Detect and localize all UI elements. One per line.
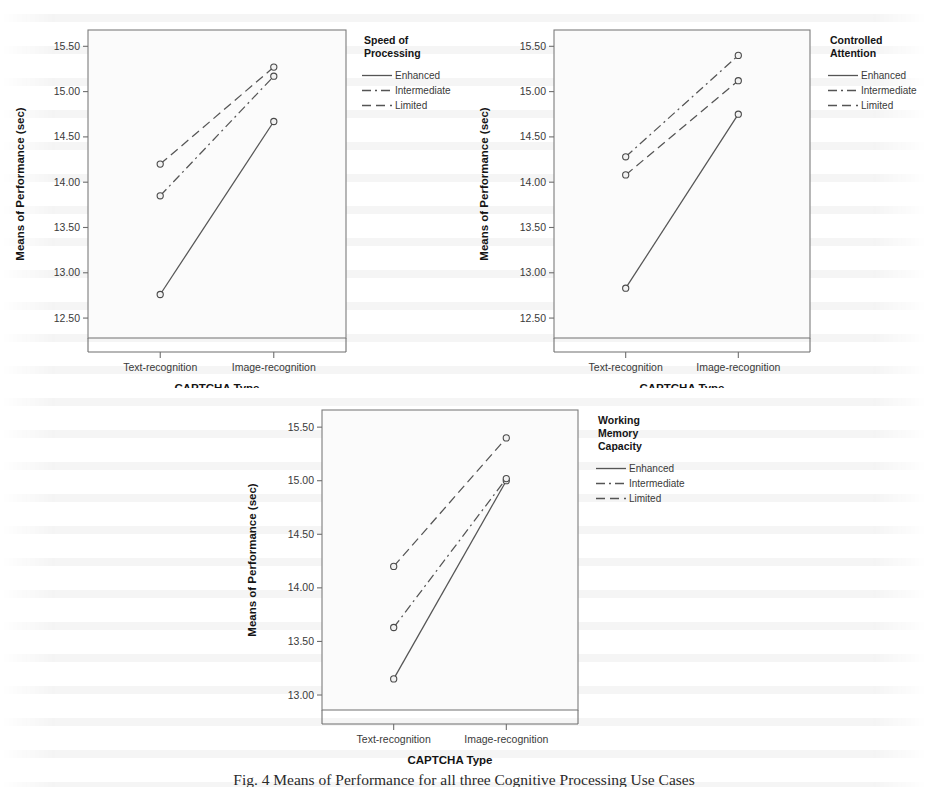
- y-tick-label: 14.00: [520, 176, 546, 188]
- chart-panel-controlled-attention: 12.5013.0013.5014.0014.5015.0015.50Text-…: [464, 8, 928, 388]
- y-tick-label: 15.00: [54, 85, 80, 97]
- y-tick-label: 14.50: [54, 130, 80, 142]
- legend-title-line: Working: [598, 414, 640, 426]
- x-axis-title: CAPTCHA Type: [408, 754, 493, 766]
- legend-label-intermediate: Intermediate: [861, 85, 917, 96]
- x-tick-label: Image-recognition: [464, 733, 548, 745]
- data-point-marker: [391, 624, 397, 630]
- y-tick-label: 15.00: [288, 474, 314, 486]
- legend-title-line: Capacity: [598, 440, 642, 452]
- data-point-marker: [157, 193, 163, 199]
- x-tick-label: Text-recognition: [123, 361, 197, 373]
- chart-panel-working-memory-capacity: 13.0013.5014.0014.5015.0015.50Text-recog…: [232, 388, 696, 778]
- x-tick-label: Text-recognition: [357, 733, 431, 745]
- line-chart: 12.5013.0013.5014.0014.5015.0015.50Text-…: [0, 8, 464, 388]
- data-point-marker: [271, 73, 277, 79]
- y-tick-label: 13.50: [288, 635, 314, 647]
- data-point-marker: [271, 118, 277, 124]
- y-tick-label: 14.00: [54, 176, 80, 188]
- legend-title-line: Attention: [830, 47, 876, 59]
- legend-label-enhanced: Enhanced: [629, 463, 674, 474]
- y-tick-label: 15.50: [288, 421, 314, 433]
- x-tick-label: Text-recognition: [589, 361, 663, 373]
- legend-title-line: Processing: [364, 47, 421, 59]
- line-chart: 13.0013.5014.0014.5015.0015.50Text-recog…: [232, 388, 696, 778]
- y-tick-label: 14.50: [288, 528, 314, 540]
- data-point-marker: [503, 435, 509, 441]
- data-point-marker: [623, 172, 629, 178]
- data-point-marker: [623, 285, 629, 291]
- legend-label-enhanced: Enhanced: [395, 70, 440, 81]
- legend-label-limited: Limited: [395, 100, 427, 111]
- x-tick-label: Image-recognition: [232, 361, 316, 373]
- y-tick-label: 13.50: [54, 221, 80, 233]
- legend-title-line: Controlled: [830, 34, 883, 46]
- legend-label-limited: Limited: [629, 493, 661, 504]
- data-point-marker: [503, 476, 509, 482]
- y-tick-label: 13.00: [54, 266, 80, 278]
- y-tick-label: 13.50: [520, 221, 546, 233]
- y-tick-label: 12.50: [54, 312, 80, 324]
- y-tick-label: 13.00: [288, 689, 314, 701]
- y-tick-label: 15.50: [520, 40, 546, 52]
- data-point-marker: [623, 154, 629, 160]
- chart-panel-speed-of-processing: 12.5013.0013.5014.0014.5015.0015.50Text-…: [0, 8, 464, 388]
- y-tick-label: 15.50: [54, 40, 80, 52]
- data-point-marker: [391, 563, 397, 569]
- figure-caption: Fig. 4 Means of Performance for all thre…: [0, 771, 928, 787]
- data-point-marker: [391, 676, 397, 682]
- y-axis-title: Means of Performance (sec): [246, 483, 258, 637]
- data-point-marker: [735, 111, 741, 117]
- legend-label-limited: Limited: [861, 100, 893, 111]
- data-point-marker: [735, 78, 741, 84]
- data-point-marker: [157, 161, 163, 167]
- data-point-marker: [271, 64, 277, 70]
- line-chart: 12.5013.0013.5014.0014.5015.0015.50Text-…: [464, 8, 928, 388]
- data-point-marker: [157, 291, 163, 297]
- y-tick-label: 15.00: [520, 85, 546, 97]
- y-axis-title: Means of Performance (sec): [14, 107, 26, 261]
- x-tick-label: Image-recognition: [696, 361, 780, 373]
- y-tick-label: 13.00: [520, 266, 546, 278]
- legend-label-intermediate: Intermediate: [629, 478, 685, 489]
- legend-title-line: Memory: [598, 427, 638, 439]
- y-tick-label: 14.50: [520, 130, 546, 142]
- y-tick-label: 12.50: [520, 312, 546, 324]
- data-point-marker: [735, 52, 741, 58]
- legend-title-line: Speed of: [364, 34, 409, 46]
- legend-label-enhanced: Enhanced: [861, 70, 906, 81]
- y-axis-title: Means of Performance (sec): [478, 107, 490, 261]
- legend-label-intermediate: Intermediate: [395, 85, 451, 96]
- y-tick-label: 14.00: [288, 581, 314, 593]
